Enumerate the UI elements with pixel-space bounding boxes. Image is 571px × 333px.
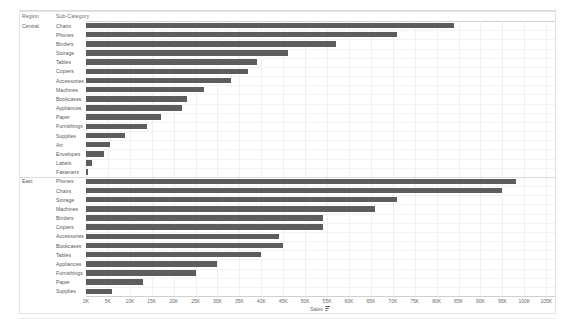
bar-row[interactable]: [86, 113, 555, 122]
bar-row[interactable]: [86, 250, 555, 259]
region-label[interactable]: Central: [22, 23, 39, 29]
subcategory-label[interactable]: Accessories: [56, 78, 84, 84]
subcategory-label[interactable]: Supplies: [56, 288, 76, 294]
subcategory-label[interactable]: Binders: [56, 215, 74, 221]
subcategory-label[interactable]: Paper: [56, 279, 70, 285]
bar-row[interactable]: [86, 287, 555, 296]
bar-row[interactable]: [86, 223, 555, 232]
bar-row[interactable]: [86, 94, 555, 103]
bar-row[interactable]: [86, 149, 555, 158]
subcategory-label[interactable]: Appliances: [56, 105, 81, 111]
subcategory-label[interactable]: Chairs: [56, 188, 71, 194]
bar[interactable]: [86, 179, 516, 185]
bar[interactable]: [86, 124, 147, 130]
subcategory-label[interactable]: Tables: [56, 59, 71, 65]
subcategory-label[interactable]: Appliances: [56, 261, 81, 267]
subcategory-label[interactable]: Phones: [56, 178, 74, 184]
subcategory-label[interactable]: Furnishings: [56, 123, 83, 129]
bar-row[interactable]: [86, 104, 555, 113]
bar[interactable]: [86, 114, 161, 120]
bar[interactable]: [86, 87, 204, 93]
bar[interactable]: [86, 252, 261, 258]
bar-row[interactable]: [86, 58, 555, 67]
bar[interactable]: [86, 243, 283, 249]
bar[interactable]: [86, 96, 187, 102]
sort-descending-icon[interactable]: [325, 306, 330, 312]
subcategory-label[interactable]: Art: [56, 142, 63, 148]
bar[interactable]: [86, 59, 257, 65]
subcategory-label[interactable]: Fasteners: [56, 169, 79, 175]
bar[interactable]: [86, 234, 279, 240]
bar-row[interactable]: [86, 131, 555, 140]
bar-row[interactable]: [86, 186, 555, 195]
bar[interactable]: [86, 160, 92, 166]
subcategory-label[interactable]: Copiers: [56, 68, 74, 74]
bar[interactable]: [86, 142, 110, 148]
bar-row[interactable]: [86, 269, 555, 278]
subcategory-label[interactable]: Accessories: [56, 233, 84, 239]
subcategory-label[interactable]: Furnishings: [56, 270, 83, 276]
tick-label: 40K: [257, 298, 266, 304]
bar[interactable]: [86, 224, 323, 230]
x-axis[interactable]: 0K5K10K15K20K25K30K35K40K45K50K55K60K65K…: [86, 296, 555, 316]
subcategory-label[interactable]: Labels: [56, 160, 71, 166]
bar[interactable]: [86, 23, 454, 29]
bar[interactable]: [86, 151, 104, 157]
bar-row[interactable]: [86, 159, 555, 168]
subcategory-label[interactable]: Storage: [56, 50, 74, 56]
subcategory-label[interactable]: Paper: [56, 114, 70, 120]
tick-label: 15K: [147, 298, 156, 304]
bar[interactable]: [86, 50, 288, 56]
bar[interactable]: [86, 215, 323, 221]
axis-title[interactable]: Sales: [310, 306, 330, 312]
bar[interactable]: [86, 197, 397, 203]
subcategory-label[interactable]: Machines: [56, 206, 78, 212]
bar-row[interactable]: [86, 168, 555, 177]
subcategory-label[interactable]: Phones: [56, 32, 74, 38]
bar[interactable]: [86, 206, 375, 212]
bar-row[interactable]: [86, 140, 555, 149]
row-label-column: CentralChairsPhonesBindersStorageTablesC…: [0, 21, 86, 296]
subcategory-label[interactable]: Chairs: [56, 23, 71, 29]
bar-row[interactable]: [86, 85, 555, 94]
subcategory-label[interactable]: Tables: [56, 252, 71, 258]
bar[interactable]: [86, 279, 143, 285]
bar[interactable]: [86, 188, 502, 194]
subcategory-label[interactable]: Copiers: [56, 224, 74, 230]
bar-row[interactable]: [86, 49, 555, 58]
bar[interactable]: [86, 133, 125, 139]
bar-row[interactable]: [86, 241, 555, 250]
bar-row[interactable]: [86, 232, 555, 241]
bar-row[interactable]: [86, 259, 555, 268]
bar-row[interactable]: [86, 122, 555, 131]
bar[interactable]: [86, 270, 196, 276]
bar-row[interactable]: [86, 204, 555, 213]
bar-row[interactable]: [86, 177, 555, 186]
subcategory-label[interactable]: Supplies: [56, 133, 76, 139]
subcategory-label[interactable]: Envelopes: [56, 151, 80, 157]
tick-label: 90K: [476, 298, 485, 304]
bar-row[interactable]: [86, 76, 555, 85]
bar[interactable]: [86, 105, 182, 111]
region-label[interactable]: East: [22, 178, 32, 184]
bar-row[interactable]: [86, 195, 555, 204]
bar[interactable]: [86, 261, 217, 267]
bar-row[interactable]: [86, 67, 555, 76]
bar[interactable]: [86, 32, 397, 38]
bar-row[interactable]: [86, 214, 555, 223]
subcategory-label[interactable]: Bookcases: [56, 96, 81, 102]
bar-row[interactable]: [86, 39, 555, 48]
bar-row[interactable]: [86, 21, 555, 30]
bar[interactable]: [86, 289, 112, 295]
tick-label: 60K: [345, 298, 354, 304]
bar[interactable]: [86, 169, 88, 175]
subcategory-label[interactable]: Storage: [56, 197, 74, 203]
subcategory-label[interactable]: Bookcases: [56, 243, 81, 249]
bar[interactable]: [86, 78, 231, 84]
subcategory-label[interactable]: Machines: [56, 87, 78, 93]
bar[interactable]: [86, 41, 336, 47]
subcategory-label[interactable]: Binders: [56, 41, 74, 47]
bar-row[interactable]: [86, 30, 555, 39]
bar[interactable]: [86, 69, 248, 75]
bar-row[interactable]: [86, 278, 555, 287]
